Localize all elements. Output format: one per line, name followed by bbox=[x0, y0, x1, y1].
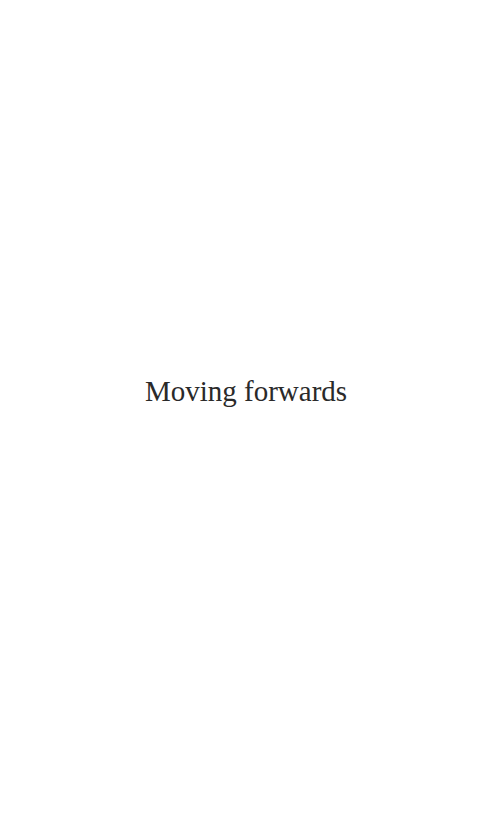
book-page: Moving forwards bbox=[0, 0, 492, 819]
section-title: Moving forwards bbox=[0, 373, 492, 409]
